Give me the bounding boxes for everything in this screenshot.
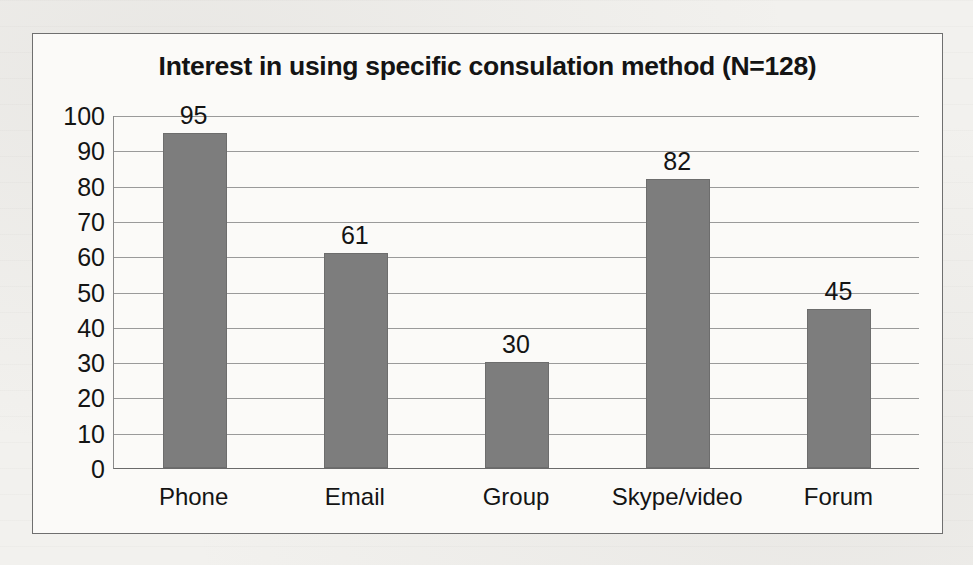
chart-title: Interest in using specific consulation m… [33, 51, 942, 82]
x-axis-category-label: Forum [804, 483, 873, 511]
y-axis-tick-label: 40 [35, 313, 105, 342]
bar-value-label: 61 [341, 221, 369, 250]
bar [324, 253, 388, 468]
gridline [114, 328, 919, 329]
gridline [114, 116, 919, 117]
y-axis-tick-label: 50 [35, 278, 105, 307]
bar-value-label: 82 [663, 147, 691, 176]
y-axis-tick-labels: 1009080706050403020100 [33, 116, 105, 469]
bar-value-label: 30 [502, 330, 530, 359]
bar [807, 309, 871, 468]
x-axis-category-label: Email [325, 483, 385, 511]
gridline [114, 151, 919, 152]
gridline [114, 222, 919, 223]
y-axis-tick-label: 60 [35, 243, 105, 272]
y-axis-tick-label: 70 [35, 207, 105, 236]
plot-area [113, 116, 919, 469]
bar [646, 179, 710, 468]
gridline [114, 257, 919, 258]
x-axis-category-labels: PhoneEmailGroupSkype/videoForum [113, 475, 919, 521]
x-axis-category-label: Group [483, 483, 550, 511]
y-axis-tick-label: 90 [35, 137, 105, 166]
bar-value-label: 45 [824, 277, 852, 306]
gridline [114, 187, 919, 188]
y-axis-tick-label: 0 [35, 455, 105, 484]
chart-frame: Interest in using specific consulation m… [32, 33, 943, 534]
bar-value-label: 95 [180, 101, 208, 130]
y-axis-tick-label: 100 [35, 102, 105, 131]
x-axis-category-label: Phone [159, 483, 228, 511]
y-axis-tick-label: 30 [35, 349, 105, 378]
bar [485, 362, 549, 468]
gridline [114, 293, 919, 294]
y-axis-tick-label: 80 [35, 172, 105, 201]
x-axis-category-label: Skype/video [612, 483, 743, 511]
y-axis-tick-label: 10 [35, 419, 105, 448]
y-axis-tick-label: 20 [35, 384, 105, 413]
bar [163, 133, 227, 468]
